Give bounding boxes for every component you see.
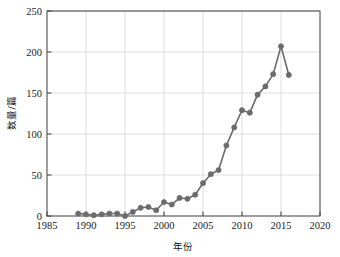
data-point-marker	[130, 209, 135, 214]
x-tick-label: 2010	[232, 220, 253, 231]
x-tick-label: 2015	[271, 220, 292, 231]
chart-container: 250200150100500 198519901995200020052010…	[0, 0, 340, 257]
y-axis-title: 数量/篇	[6, 96, 17, 129]
data-point-marker	[216, 167, 221, 172]
y-tick-label: 200	[26, 47, 42, 58]
x-tick-label: 2000	[154, 220, 175, 231]
y-tick-label: 150	[26, 88, 42, 99]
data-point-marker	[169, 202, 174, 207]
data-point-marker	[232, 125, 237, 130]
data-point-marker	[154, 208, 159, 213]
y-tick-label: 250	[26, 6, 42, 17]
x-tick-label: 1995	[115, 220, 136, 231]
data-point-marker	[107, 211, 112, 216]
data-point-marker	[91, 213, 96, 218]
data-point-marker	[161, 199, 166, 204]
data-point-marker	[263, 84, 268, 89]
data-point-marker	[200, 181, 205, 186]
line-chart: 250200150100500 198519901995200020052010…	[0, 0, 340, 257]
data-point-marker	[177, 195, 182, 200]
data-point-marker	[255, 92, 260, 97]
data-point-marker	[122, 213, 127, 218]
y-tick-label: 100	[26, 129, 42, 140]
data-point-marker	[115, 211, 120, 216]
x-tick-label: 2020	[310, 220, 331, 231]
data-point-marker	[138, 205, 143, 210]
data-point-marker	[83, 212, 88, 217]
data-point-marker	[76, 211, 81, 216]
x-tick-label: 1985	[37, 220, 58, 231]
x-tick-label: 2005	[193, 220, 214, 231]
x-axis-title: 年份	[173, 241, 193, 252]
data-point-marker	[146, 204, 151, 209]
data-point-marker	[286, 72, 291, 77]
x-tick-label: 1990	[76, 220, 97, 231]
data-point-marker	[185, 196, 190, 201]
data-point-marker	[247, 110, 252, 115]
data-point-marker	[193, 192, 198, 197]
y-tick-label: 50	[32, 170, 43, 181]
data-point-marker	[208, 172, 213, 177]
data-point-marker	[224, 143, 229, 148]
data-point-marker	[271, 72, 276, 77]
chart-background	[0, 0, 340, 257]
data-point-marker	[278, 44, 283, 49]
data-point-marker	[239, 108, 244, 113]
data-point-marker	[99, 212, 104, 217]
